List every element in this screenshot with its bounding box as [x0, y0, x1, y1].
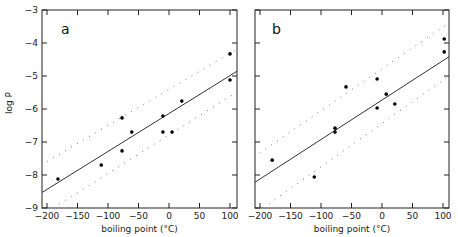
x-tick-label: 100 [221, 211, 238, 221]
data-point [393, 102, 397, 106]
plot-frame [255, 10, 449, 208]
confidence-band-upper [41, 49, 237, 165]
y-tick-label: −8 [25, 170, 39, 180]
x-tick-label: −50 [342, 211, 361, 221]
x-tick-label: 50 [194, 211, 206, 221]
x-tick-label: 0 [379, 211, 385, 221]
regression-line [254, 56, 450, 183]
data-point [120, 116, 124, 120]
x-tick-label: 50 [407, 211, 419, 221]
data-point [442, 50, 446, 54]
data-point [384, 92, 388, 96]
x-tick-label: −50 [129, 211, 148, 221]
confidence-band-lower [53, 92, 237, 208]
y-tick-label: −7 [25, 137, 38, 147]
x-axis-label: boiling point (°C) [314, 224, 391, 234]
x-tick-label: 100 [434, 211, 451, 221]
data-point [180, 99, 184, 103]
regression-line [41, 71, 237, 193]
x-tick-label: −100 [309, 211, 334, 221]
data-point [344, 85, 348, 89]
figure: −200−150−100−50050100−9−8−7−6−5−4−3boili… [0, 0, 458, 237]
y-tick-label: −5 [25, 71, 38, 81]
x-tick-label: −150 [278, 211, 303, 221]
x-tick-label: −200 [35, 211, 60, 221]
panel-label: a [61, 21, 70, 37]
y-tick-label: −4 [25, 38, 39, 48]
data-point [333, 126, 337, 130]
y-tick-label: −9 [25, 203, 39, 213]
panel-label: b [272, 21, 281, 37]
x-tick-label: −200 [248, 211, 273, 221]
x-tick-label: −100 [96, 211, 121, 221]
data-point [161, 130, 165, 134]
confidence-band-upper [254, 22, 450, 157]
y-tick-label: −6 [25, 104, 39, 114]
data-point [161, 114, 165, 118]
x-axis-label: boiling point (°C) [101, 224, 178, 234]
data-point [170, 130, 174, 134]
data-point [228, 52, 232, 56]
plot-frame [42, 10, 237, 208]
data-point [333, 130, 337, 134]
data-point [130, 130, 134, 134]
data-point [375, 77, 379, 81]
panel-a: −200−150−100−50050100−9−8−7−6−5−4−3boili… [4, 5, 239, 234]
x-tick-label: −150 [65, 211, 90, 221]
data-point [228, 78, 232, 82]
confidence-band-lower [263, 75, 450, 208]
data-point [442, 37, 446, 41]
panel-b: −200−150−100−50050100boiling point (°C)b [248, 10, 452, 234]
data-point [312, 175, 316, 179]
y-axis-label: log P [4, 91, 14, 114]
data-point [270, 158, 274, 162]
data-point [56, 177, 60, 181]
data-point [120, 149, 124, 153]
data-point [99, 163, 103, 167]
data-point [375, 106, 379, 110]
x-tick-label: 0 [166, 211, 172, 221]
y-tick-label: −3 [25, 5, 38, 15]
